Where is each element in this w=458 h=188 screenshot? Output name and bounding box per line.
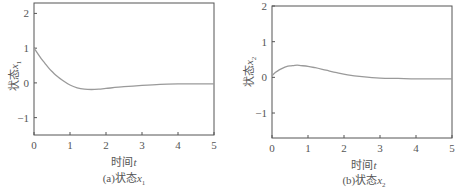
caption-a: (a)状态x1 [94, 169, 154, 187]
y-axis-label-sub: 2 [250, 57, 258, 61]
caption-text: (a)状态 [103, 172, 137, 184]
x-tick-label: 2 [341, 142, 347, 154]
plot-frame [272, 6, 452, 138]
x-axis-label-text: 时间 [351, 159, 373, 171]
x-tick-label: 3 [139, 139, 145, 151]
x-axis-label-text: 时间 [111, 156, 133, 168]
x-axis-label-var: t [373, 159, 376, 171]
y-tick-label: 1 [24, 42, 30, 54]
x-tick-label: 5 [211, 139, 217, 151]
caption-sub: 2 [382, 181, 386, 188]
chart-panel-b: 012345−1012 状态x2 时间t (b)状态x2 [229, 0, 458, 188]
series-line-x2 [272, 65, 452, 79]
y-tick-label: −1 [17, 112, 29, 124]
x-axis-label-b: 时间t [344, 156, 384, 172]
caption-sub: 1 [142, 179, 146, 187]
y-axis-label-a: 状态x1 [5, 47, 23, 91]
plot-frame [34, 3, 214, 135]
y-axis-label-var: x [243, 60, 255, 65]
y-tick-label: 0 [24, 77, 30, 89]
x-axis-label-a: 时间t [104, 153, 144, 169]
x-axis-label-var: t [133, 156, 136, 168]
chart-panel-a: 012345−1012 状态x1 时间t (a)状态x1 [0, 0, 229, 188]
y-tick-label: −1 [255, 107, 267, 119]
series-line-x1 [34, 48, 214, 89]
y-tick-label: 2 [24, 7, 30, 19]
caption-b: (b)状态x2 [334, 171, 394, 188]
x-tick-label: 0 [31, 139, 37, 151]
x-tick-label: 5 [449, 142, 455, 154]
x-tick-label: 1 [305, 142, 311, 154]
y-axis-label-sub: 1 [15, 61, 23, 65]
y-axis-label-b: 状态x2 [240, 43, 258, 87]
y-tick-label: 1 [262, 36, 268, 48]
x-tick-label: 2 [103, 139, 109, 151]
y-axis-label-text: 状态 [8, 69, 20, 91]
y-tick-label: 0 [262, 71, 268, 83]
y-axis-label-var: x [8, 64, 20, 69]
x-tick-label: 1 [67, 139, 73, 151]
x-tick-label: 3 [377, 142, 383, 154]
caption-text: (b)状态 [342, 174, 377, 186]
x-tick-label: 4 [413, 142, 419, 154]
x-tick-label: 4 [175, 139, 181, 151]
y-tick-label: 2 [262, 0, 268, 12]
x-tick-label: 0 [269, 142, 275, 154]
y-axis-label-text: 状态 [243, 65, 255, 87]
